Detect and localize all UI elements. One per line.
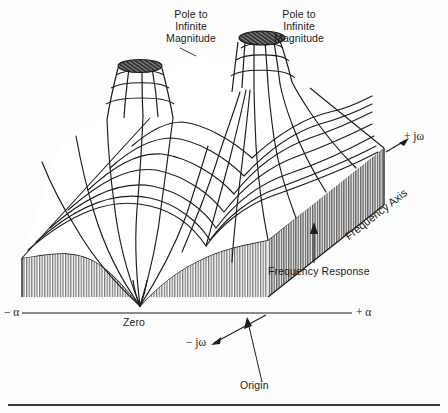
jomega-negative-label: − jω [186,336,206,348]
pole-right-label: Pole to Infinite Magnitude [258,8,340,45]
pole-left-label: Pole to Infinite Magnitude [150,8,232,45]
bottom-divider [8,404,440,406]
pole-left-label-line2: Infinite [150,20,232,32]
pole-label-leaders [180,48,196,56]
pole-left-label-line3: Magnitude [150,32,232,44]
pole-right-label-line1: Pole to [258,8,340,20]
pole-right-label-line3: Magnitude [258,32,340,44]
jomega-negative-arrow [211,315,266,345]
pole-left-label-line1: Pole to [150,8,232,20]
zero-label: Zero [123,316,145,328]
pole-right-label-line2: Infinite [258,20,340,32]
frequency-response-label: Frequency Response [268,265,370,277]
sigma-positive-label: + α [356,306,371,318]
origin-label: Origin [240,379,269,391]
origin-pointer [244,317,262,382]
figure-pole-zero-surface: Pole to Infinite Magnitude Pole to Infin… [0,0,448,413]
jomega-positive-label: + jω [404,130,424,142]
sigma-negative-label: − α [4,306,19,318]
